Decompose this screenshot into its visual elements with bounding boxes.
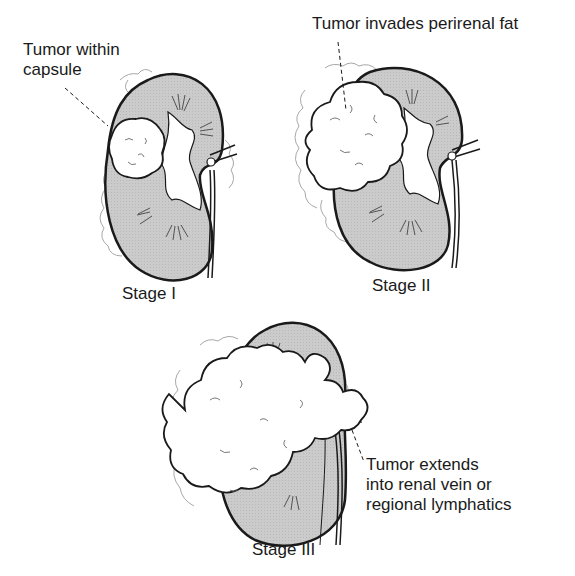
annotation-line: capsule	[23, 60, 120, 80]
stage-3-leader-line	[352, 430, 364, 462]
stage-1-leader-line	[65, 88, 108, 126]
stage-1-annotation: Tumor within capsule	[23, 40, 120, 80]
stage-2-label: Stage II	[372, 276, 431, 296]
stage-1-kidney	[100, 69, 237, 280]
annotation-line: into renal vein or	[366, 475, 512, 495]
stage-2-kidney	[295, 63, 480, 270]
annotation-line: Tumor extends	[366, 455, 512, 475]
stage-3-label: Stage III	[252, 540, 315, 560]
stage-1-label: Stage I	[122, 284, 176, 304]
stage-2-annotation: Tumor invades perirenal fat	[312, 14, 518, 34]
annotation-line: Tumor invades perirenal fat	[312, 14, 518, 34]
stage-3-annotation: Tumor extends into renal vein or regiona…	[366, 455, 512, 515]
stage-3-kidney	[162, 323, 367, 546]
annotation-line: regional lymphatics	[366, 495, 512, 515]
annotation-line: Tumor within	[23, 40, 120, 60]
